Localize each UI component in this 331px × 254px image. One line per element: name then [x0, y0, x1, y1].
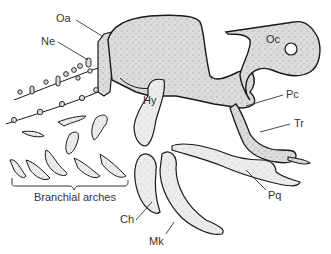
- otic-foramen: [285, 43, 297, 55]
- neural-elements: [18, 58, 92, 94]
- label-ne: Ne: [41, 36, 55, 47]
- label-hy: Hy: [143, 95, 156, 106]
- branchial-bracket: [12, 178, 128, 190]
- trabecula-shape: [230, 104, 296, 163]
- label-oa: Oa: [56, 13, 71, 24]
- anatomy-diagram: Oa Ne Oc Hy Pc Tr Pq Ch Mk Branchial arc…: [0, 0, 331, 254]
- braincase-shape: [108, 15, 255, 108]
- label-mk: Mk: [149, 236, 164, 247]
- label-pc: Pc: [286, 89, 299, 100]
- ceratohyal-shape: [135, 154, 160, 213]
- label-pq: Pq: [268, 190, 281, 201]
- label-ch: Ch: [120, 214, 134, 225]
- label-branchial-arches: Branchial arches: [34, 192, 116, 203]
- small-rod-shape: [288, 157, 310, 164]
- meckels-cartilage-shape: [160, 152, 223, 234]
- branchial-arch-elements: [10, 115, 126, 179]
- label-oc: Oc: [266, 34, 280, 45]
- label-tr: Tr: [294, 118, 304, 129]
